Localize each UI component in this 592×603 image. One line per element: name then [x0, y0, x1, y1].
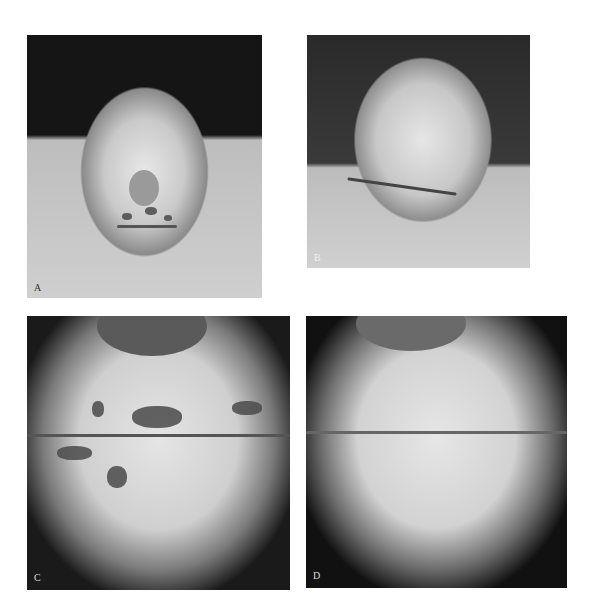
- lesion-mark: [145, 207, 157, 215]
- nostrils-shape: [97, 316, 207, 356]
- lips-shape: [117, 225, 177, 228]
- lesion-mark: [122, 213, 132, 220]
- panel-label-b: B: [314, 252, 321, 263]
- lips-shape: [306, 431, 567, 434]
- lips-shape: [27, 434, 290, 437]
- panel-c-image: C: [27, 316, 290, 590]
- panel-label-a: A: [34, 282, 42, 293]
- nose-shape: [129, 170, 159, 206]
- lesion-mark: [92, 401, 104, 417]
- panel-b-image: B: [307, 35, 530, 268]
- nostrils-shape: [356, 316, 466, 351]
- panel-label-d: D: [313, 570, 321, 581]
- lesion-mark: [232, 401, 262, 415]
- lesion-mark: [164, 215, 172, 221]
- lesion-mark: [132, 406, 182, 428]
- lesion-mark: [107, 466, 127, 488]
- suture-line: [347, 177, 456, 195]
- panel-d-image: D: [306, 316, 567, 588]
- lesion-mark: [57, 446, 92, 460]
- panel-a-image: A: [27, 35, 262, 298]
- panel-label-c: C: [34, 572, 41, 583]
